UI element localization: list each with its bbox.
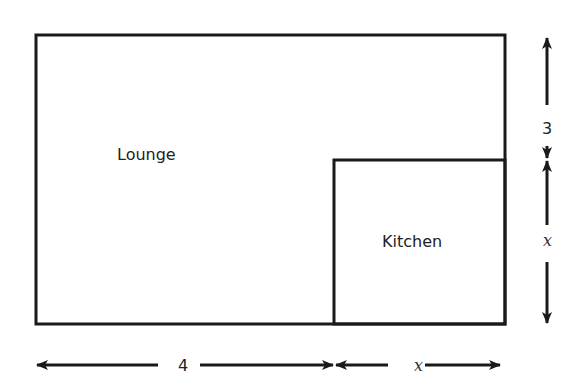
dimension-bottom-left: 4 — [37, 356, 333, 375]
dimension-x-label: x — [414, 356, 423, 375]
floor-plan-diagram: Lounge Kitchen 3 x 4 x — [0, 0, 584, 389]
dimension-4-label: 4 — [178, 356, 188, 375]
dimension-x-label: x — [543, 231, 552, 250]
dimension-3-label: 3 — [542, 119, 552, 138]
dimension-right-bottom: x — [543, 161, 552, 323]
lounge-outline — [36, 35, 505, 324]
kitchen-label: Kitchen — [382, 232, 442, 251]
dimension-bottom-right: x — [336, 356, 500, 375]
dimension-right-top: 3 — [542, 38, 552, 158]
lounge-label: Lounge — [117, 145, 176, 164]
